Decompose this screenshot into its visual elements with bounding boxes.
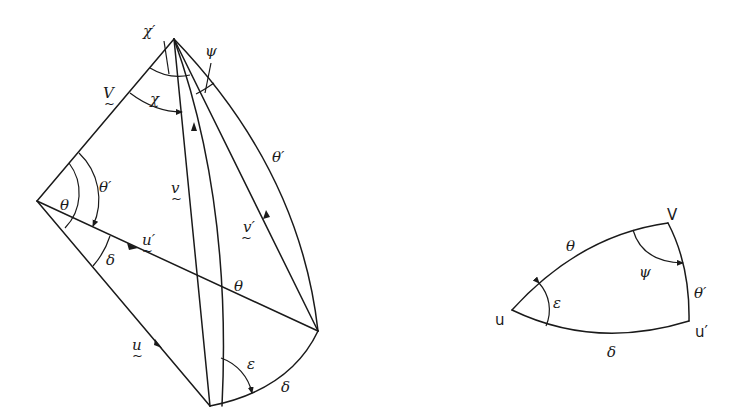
label-chi: χ [149,90,160,108]
tilde-V: ~ [104,96,115,111]
side-delta [512,310,689,333]
psi-leader [205,63,211,93]
arc-V-to-u-inner [174,39,223,406]
label-psi: ψ [205,42,217,60]
tilde-u-prime: ~ [142,243,153,258]
arc-delta [210,331,318,406]
label-vertex-V: V [667,206,678,224]
label-theta-prime-arc: θ′ [272,148,285,166]
arrow-v-icon [191,122,197,131]
label-side-theta: θ [566,237,575,255]
label-side-theta-prime: θ′ [694,284,707,302]
label-delta-origin: δ [106,251,115,269]
label-angle-epsilon: ε [553,294,561,312]
label-angle-psi: ψ [639,263,651,281]
arrow-v-prime-icon [263,210,270,219]
arrow-u-icon [154,339,162,348]
label-theta-mid: θ [234,277,243,295]
tilde-v: ~ [171,191,182,206]
vector-v-prime-line [174,39,318,331]
tilde-v-prime: ~ [241,230,252,245]
label-vertex-u-prime: u′ [695,323,709,341]
angle-theta-prime-arc [79,153,99,226]
label-chi-prime: χ′ [142,22,156,40]
angle-psi-arc-right [633,230,683,263]
vector-u-prime-line [37,201,318,331]
angle-epsilon-arc-right [539,283,549,326]
label-side-delta: δ [607,343,616,361]
label-theta-prime-origin: θ′ [99,178,112,196]
label-epsilon: ε [247,355,255,373]
label-delta-arc: δ [281,378,290,396]
vector-V-line [37,39,174,201]
left-diagram: χ′ ψ χ V ~ θ′ θ′ θ v ~ v′ ~ u′ ~ δ θ u ~… [37,22,318,406]
figure-canvas: χ′ ψ χ V ~ θ′ θ′ θ v ~ v′ ~ u′ ~ δ θ u ~… [0,0,747,419]
label-theta-origin: θ [60,196,69,214]
vector-u-line [37,201,210,406]
label-vertex-u: u [495,311,505,329]
side-theta-prime [668,223,689,321]
right-diagram: V θ ψ θ′ ε u u′ δ [495,206,709,361]
tilde-u: ~ [132,348,143,363]
